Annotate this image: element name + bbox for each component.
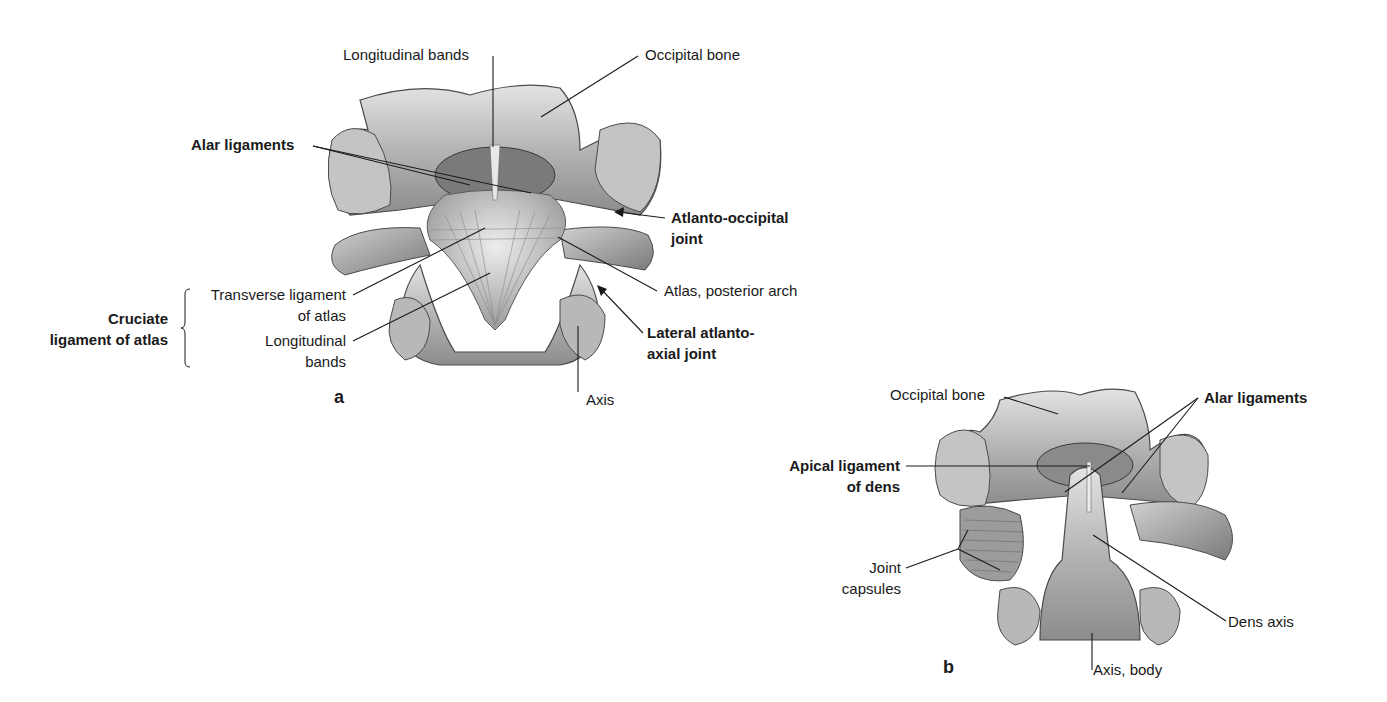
- figure-a-illustration: [328, 85, 661, 365]
- label-axis-body: Axis, body: [1093, 660, 1162, 680]
- label-alar-ligaments-b: Alar ligaments: [1204, 388, 1307, 408]
- cruciate-brace: [180, 288, 194, 368]
- label-transverse-ligament-1: Transverse ligament: [211, 285, 346, 305]
- label-longitudinal-bands-2: bands: [305, 352, 346, 372]
- label-transverse-ligament-2: of atlas: [298, 306, 346, 326]
- label-occipital-bone-b: Occipital bone: [890, 385, 985, 405]
- label-cruciate-2: ligament of atlas: [50, 330, 168, 350]
- label-dens-axis: Dens axis: [1228, 612, 1294, 632]
- label-atlas-posterior-arch: Atlas, posterior arch: [664, 281, 797, 301]
- label-apical-ligament-2: of dens: [847, 477, 900, 497]
- label-cruciate-1: Cruciate: [108, 309, 168, 329]
- label-apical-ligament-1: Apical ligament: [789, 456, 900, 476]
- label-axis: Axis: [586, 390, 614, 410]
- panel-letter-a: a: [334, 387, 344, 408]
- panel-letter-b: b: [943, 657, 954, 678]
- label-atlanto-occipital-joint-1: Atlanto-occipital: [671, 208, 789, 228]
- label-joint-capsules-2: capsules: [842, 579, 901, 599]
- label-atlanto-occipital-joint-2: joint: [671, 229, 703, 249]
- label-longitudinal-bands-top: Longitudinal bands: [343, 45, 469, 65]
- label-occipital-bone-a: Occipital bone: [645, 45, 740, 65]
- label-alar-ligaments-a: Alar ligaments: [191, 135, 294, 155]
- figure-b-illustration: [935, 389, 1233, 645]
- label-lateral-atlanto-axial-2: axial joint: [647, 344, 716, 364]
- label-longitudinal-bands-1: Longitudinal: [265, 331, 346, 351]
- label-joint-capsules-1: Joint: [869, 558, 901, 578]
- label-lateral-atlanto-axial-1: Lateral atlanto-: [647, 323, 755, 343]
